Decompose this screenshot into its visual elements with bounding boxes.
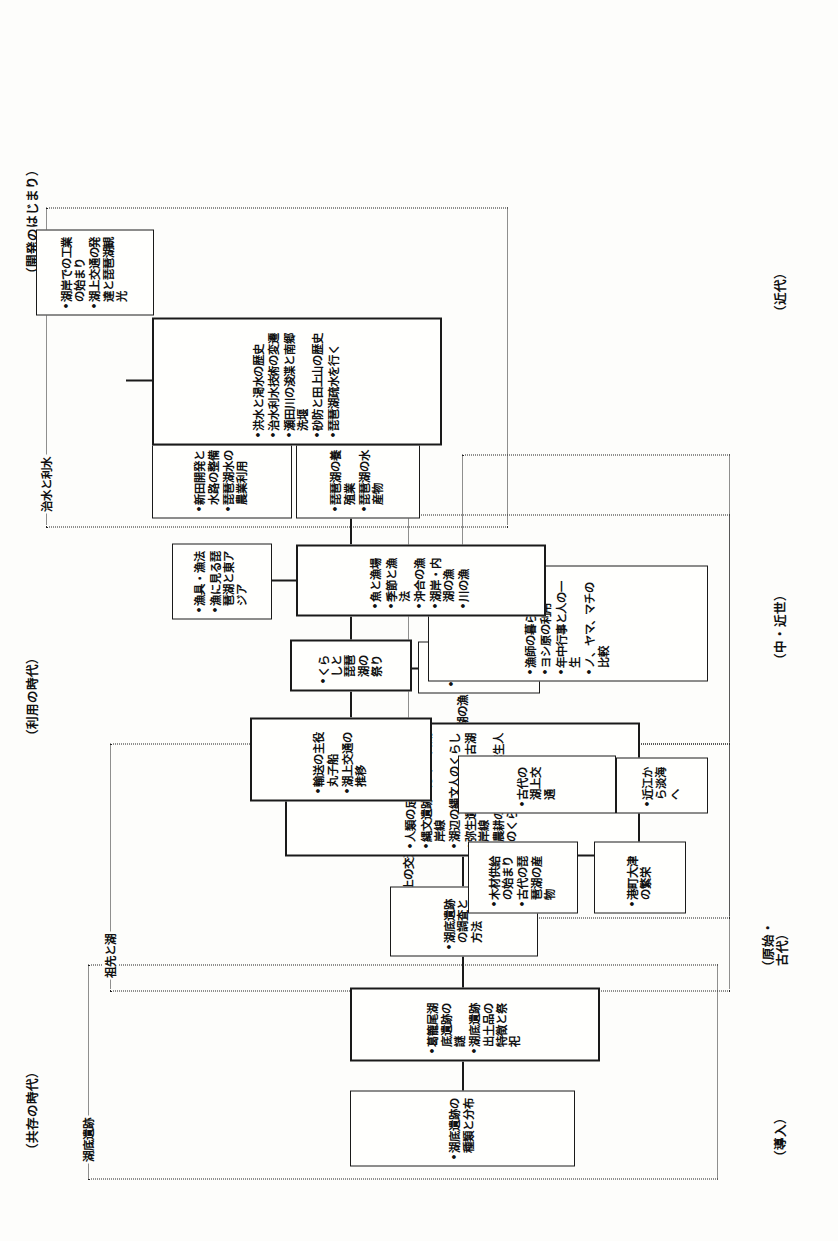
bullet-icon: • [449,842,462,849]
list-item: • 漁具・漁法 [194,549,207,613]
bullet-icon: • [449,1153,462,1160]
bullet-icon: • [414,602,427,609]
bullet-icon: • [430,602,443,609]
list-item: • 洪水と渇水の歴史 [253,324,266,438]
connector-kurashi-sakana [350,616,352,640]
connector-kotei-tsuzurao [462,1061,464,1091]
list-item: • くらしと琵琶湖の祭り [318,646,385,684]
list-item: • 湖上交通の推移 [342,724,369,794]
bullet-icon: • [330,505,343,512]
list-item: • 沖合の漁 [414,551,427,609]
bullet-icon: • [318,677,331,684]
list-item: • 港町大津の繁栄 [627,847,654,907]
bullet-icon: • [89,302,102,309]
list-item: • 輸送の主役丸子船 [313,724,340,794]
bullet-icon: • [359,505,372,512]
bullet-icon: • [458,602,471,609]
connector-kozui-kogan [126,379,152,381]
stage-label-chukinsei: （中・近世） [770,571,789,681]
box-yuso-shuyaku[interactable]: • 輸送の主役丸子船 • 湖上交通の推移 [250,717,432,801]
group-label-sosen: 祖先と湖 [102,931,118,979]
box-kodai-kojo-kotsu[interactable]: • 古代の湖上交通 [458,755,616,813]
bullet-icon: • [386,602,399,609]
diagram-page: （共存の時代） （利用の時代） （開発のはじまり） （導入） （原始・ 古代） … [0,0,838,1241]
box-kurashi-to-biwako[interactable]: • くらしと琵琶湖の祭り [290,639,412,691]
box-gyogu-gyoho[interactable]: • 漁具・漁法 • 漁に見る琵琶湖と東アジア [172,543,272,619]
list-item: • 川の漁 [458,551,471,609]
connector-sakana-gyogu [272,579,296,581]
connector-tsuzurao-chosa [462,956,464,988]
list-item: • 治水利水技術の変遷 [268,324,281,438]
box-omi-kara-afumi[interactable]: • 近江から淡海へ [616,757,708,813]
box-sakana-to-gyojo[interactable]: • 魚と漁場 • 季節と漁法 • 沖合の漁 • 湖岸・内湖の漁 • 川の漁 [296,544,546,616]
list-item: • 湖上交通の発達と琵琶湖観光 [89,235,129,309]
list-item: • 古代の琵琶湖の産物 [517,847,557,907]
bullet-icon: • [312,431,325,438]
list-item: • 琵琶湖疏水を行く [328,324,341,438]
bullet-icon: • [540,668,553,675]
bullet-icon: • [370,602,383,609]
bullet-icon: • [284,431,297,438]
list-item: • ノ、ヤマ、マチの比較 [584,571,611,675]
bullet-icon: • [427,1047,440,1054]
bullet-icon: • [627,900,640,907]
list-item: • 瀬田川の浚渫と南郷洗堰 [284,324,311,438]
bullet-icon: • [517,800,530,807]
box-kozui-to-kassui[interactable]: • 洪水と渇水の歴史 • 治水利水技術の変遷 • 瀬田川の浚渫と南郷洗堰 • 砂… [152,317,442,445]
bullet-icon: • [253,431,266,438]
list-item: • 琵琶湖の水産物 [359,450,386,512]
era-header-riyo: （利用の時代） [22,650,41,741]
bullet-icon: • [328,431,341,438]
box-biwako-yoshoku[interactable]: • 琵琶湖の養殖業 • 琵琶湖の水産物 [296,444,420,518]
bullet-icon: • [194,505,207,512]
stage-label-genshi: （原始・ 古代） [762,901,790,991]
bullet-icon: • [61,302,74,309]
list-item: • 砂防と田上山の歴史 [312,324,325,438]
stage-label-kindai: （近代） [770,241,789,341]
box-mokuzai-kyokyu[interactable]: • 木材供給の始まり • 古代の琵琶湖の産物 [468,841,578,913]
bullet-icon: • [313,787,326,794]
bullet-icon: • [489,900,502,907]
bullet-icon: • [469,1047,482,1054]
box-shinden-kaihatsu[interactable]: • 新田開発と水路の整備 • 琵琶湖水の農業利用 [152,444,292,518]
group-label-chisui-risui: 治水と利水 [38,454,54,513]
connector-yuso-kurashi [350,691,352,717]
box-minatomachi-otsu[interactable]: • 港町大津の繁栄 [594,841,686,913]
stage-label-genshi-line1: （原始・ [762,901,776,991]
box-kogan-kogyo[interactable]: • 湖岸での工業の始まり • 湖上交通の発達と琵琶湖観光 [36,229,154,315]
list-item: • 漁に見る琵琶湖と東アジア [210,549,250,613]
bullet-icon: • [210,606,223,613]
list-item: • 湖底遺跡出土品の特徴と祭祀 [469,994,522,1054]
list-item: • 木材供給の始まり [489,847,516,907]
bullet-icon: • [584,668,597,675]
list-item: • 季節と漁法 [386,551,413,609]
list-item: • 新田開発と水路の整備 [194,450,221,512]
box-tsuzurao[interactable]: • 葛籠尾湖底遺跡の謎 • 湖底遺跡出土品の特徴と祭祀 [350,987,600,1061]
connector-sakana-yoshoku [350,518,352,544]
bullet-icon: • [405,842,418,849]
diagram-canvas: （共存の時代） （利用の時代） （開発のはじまり） （導入） （原始・ 古代） … [0,0,838,1241]
list-item: • 湖岸・内湖の漁 [430,551,457,609]
bullet-icon: • [642,800,655,807]
list-item: • 魚と漁場 [370,551,383,609]
bullet-icon: • [556,668,569,675]
box-kotei-iseki-shurui[interactable]: • 湖底遺跡の種類と分布 [350,1090,575,1166]
bullet-icon: • [194,606,207,613]
group-label-kotei-iseki: 湖底遺跡 [80,1115,96,1163]
list-item: • 琵琶湖水の農業利用 [223,450,250,512]
bullet-icon: • [268,431,281,438]
connector-chosa-jinrui [462,856,464,886]
list-item: • 琵琶湖の養殖業 [330,450,357,512]
stage-label-genshi-line2: 古代） [776,901,790,991]
list-item: • 古代の湖上交通 [517,761,557,807]
bullet-icon: • [517,900,530,907]
bullet-icon: • [223,505,236,512]
list-item: • 近江から淡海へ [642,763,682,807]
bullet-icon: • [525,668,538,675]
list-item: • 湖底遺跡の種類と分布 [449,1096,476,1160]
list-item: • 葛籠尾湖底遺跡の謎 [427,994,467,1054]
list-item: • 年中行事と人の一生 [556,571,583,675]
stage-label-donyu: （導入） [770,1091,789,1181]
bullet-icon: • [342,787,355,794]
era-header-kyozon: （共存の時代） [22,1064,41,1155]
